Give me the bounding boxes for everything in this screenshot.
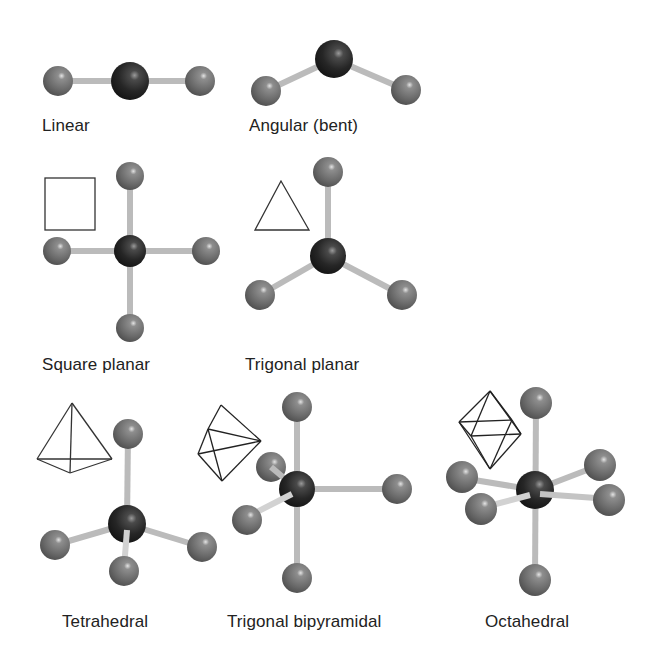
ligand-atom [520, 387, 552, 419]
ligand-atom [192, 237, 220, 265]
ligand-atom [116, 314, 144, 342]
ligand-atom [584, 449, 616, 481]
central-atom [111, 62, 149, 100]
ligand-atom [113, 419, 143, 449]
label-angular: Angular (bent) [249, 116, 358, 136]
ligand-atom [187, 532, 217, 562]
central-atom [310, 238, 346, 274]
ligand-atom [245, 280, 275, 310]
ligand-atom [232, 505, 262, 535]
square-planar-molecule [43, 162, 220, 342]
ligand-atom [43, 66, 73, 96]
ligand-atom [185, 66, 215, 96]
angular-molecule [251, 40, 421, 106]
ligand-atom [313, 157, 343, 187]
ligand-atom [116, 162, 144, 190]
tetrahedron-icon [37, 403, 112, 473]
triangle-icon [255, 181, 309, 230]
ligand-atom [446, 461, 478, 493]
ligand-atom [387, 280, 417, 310]
central-atom [279, 471, 315, 507]
trigonal-bipyramid-icon [198, 405, 261, 481]
label-trigonal-bipyramidal: Trigonal bipyramidal [227, 612, 381, 632]
ligand-atom [282, 563, 312, 593]
trigonal-bipyramidal-molecule [198, 392, 412, 593]
square-icon [45, 178, 95, 230]
label-tetrahedral: Tetrahedral [62, 612, 148, 632]
ligand-atom [391, 75, 421, 105]
tetrahedral-molecule [37, 403, 217, 586]
ligand-atom [465, 493, 497, 525]
ligand-atom [43, 237, 71, 265]
linear-molecule [43, 62, 215, 100]
octahedron-icon [459, 391, 521, 469]
label-linear: Linear [42, 116, 90, 136]
ligand-atom [109, 556, 139, 586]
trigonal-planar-molecule [245, 157, 417, 310]
ligand-atom [593, 484, 625, 516]
label-trigonal-planar: Trigonal planar [245, 355, 359, 375]
ligand-atom [519, 564, 551, 596]
label-octahedral: Octahedral [485, 612, 569, 632]
central-atom [114, 235, 146, 267]
molecular-geometry-diagram [0, 0, 654, 652]
central-atom [516, 471, 554, 509]
octahedral-molecule [446, 387, 625, 596]
ligand-atom [251, 76, 281, 106]
ligand-atom [40, 530, 70, 560]
central-atom [315, 40, 353, 78]
ligand-atom [382, 474, 412, 504]
label-square-planar: Square planar [42, 355, 150, 375]
ligand-atom [282, 392, 312, 422]
